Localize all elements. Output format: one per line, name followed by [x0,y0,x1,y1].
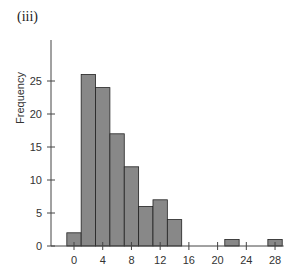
y-tick-label: 15 [30,141,42,153]
y-tick-label: 10 [30,174,42,186]
histogram-bar [225,239,239,246]
histogram-bar [167,220,181,246]
x-tick-label: 20 [211,254,223,266]
x-tick-label: 4 [100,254,106,266]
x-tick-label: 12 [154,254,166,266]
histogram-chart: 05101520250481216202428 Frequency [0,0,296,276]
y-tick-label: 25 [30,75,42,87]
histogram-bar [96,88,110,246]
y-tick-label: 5 [36,207,42,219]
x-tick-label: 28 [269,254,281,266]
x-tick-label: 0 [71,254,77,266]
histogram-bar [110,134,124,246]
x-tick-label: 24 [240,254,252,266]
histogram-bar [124,167,138,246]
x-tick-label: 16 [183,254,195,266]
y-tick-label: 0 [36,240,42,252]
histogram-bars [67,74,282,246]
y-axis-label: Frequency [14,72,26,124]
histogram-bar [81,74,95,246]
x-tick-label: 8 [128,254,134,266]
histogram-bar [139,206,153,246]
histogram-bar [153,200,167,246]
y-tick-label: 20 [30,108,42,120]
